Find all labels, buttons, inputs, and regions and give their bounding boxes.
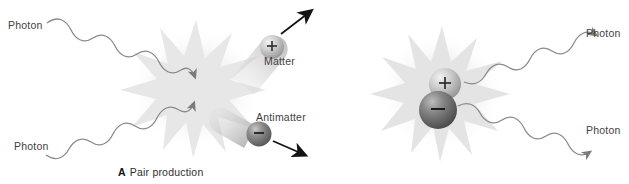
caption-text-a: Pair production [130,166,204,178]
label-photon-incoming-bottom: Photon [14,140,48,152]
label-photon-outgoing-top: Photon [586,27,620,39]
panel-a-graphics [0,0,330,184]
label-matter: Matter [264,55,295,67]
physics-diagram: Photon Photon Matter Antimatter APair pr… [0,0,629,184]
caption-letter-a: A [118,166,126,178]
matter-direction-arrow [281,11,311,34]
label-photon-outgoing-bottom: Photon [586,124,620,136]
antimatter-particle [247,122,272,147]
panel-pair-production: Photon Photon Matter Antimatter APair pr… [0,0,330,184]
label-photon-incoming-top: Photon [8,19,42,31]
panel-annihilation: BAnnihilation [330,0,629,184]
panel-b-graphics [330,0,629,184]
caption-pair-production: APair production [118,166,203,178]
label-antimatter: Antimatter [256,111,306,123]
antimatter-direction-arrow [273,141,305,155]
